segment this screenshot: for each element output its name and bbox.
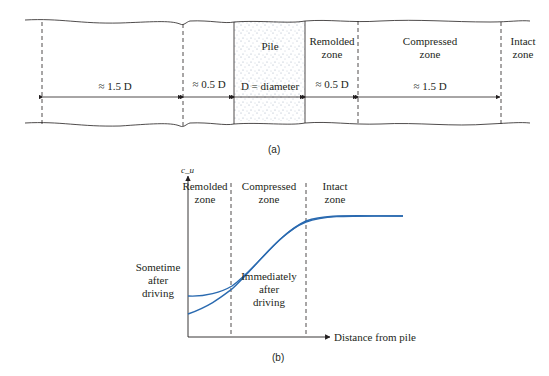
caption-a: (a) (268, 144, 280, 155)
chart-intact-zone-label: Intactzone (310, 180, 360, 206)
bottom-boundary (25, 122, 530, 126)
chart-remolded-zone-label: Remoldedzone (180, 180, 230, 206)
dim-label-compressed: ≈ 1.5 D (390, 80, 470, 93)
y-axis-label: c_u (181, 164, 194, 177)
immediately-after-driving-label: Immediatelyafterdriving (235, 270, 303, 309)
pile-diameter-label: D = diameter (236, 80, 304, 93)
pile-body (234, 21, 305, 121)
x-axis-label: Distance from pile (334, 331, 416, 344)
remolded-zone-label: Remoldedzone (307, 35, 357, 61)
dim-label-left-1.5D: ≈ 1.5 D (80, 80, 150, 93)
intact-zone-label: Intactzone (503, 35, 543, 61)
caption-b: (b) (272, 352, 284, 363)
dim-label-remolded: ≈ 0.5 D (307, 78, 357, 91)
chart-compressed-zone-label: Compressedzone (235, 180, 303, 206)
compressed-zone-label: Compressedzone (380, 35, 480, 61)
dim-label-left-0.5D: ≈ 0.5 D (185, 78, 233, 91)
pile-label: Pile (250, 40, 290, 53)
sometime-after-driving-label: Sometimeafterdriving (130, 261, 186, 300)
